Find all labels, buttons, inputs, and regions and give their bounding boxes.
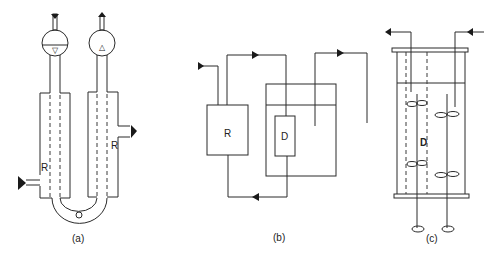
inlet-arrow-icon xyxy=(18,176,26,190)
bottom-flange xyxy=(394,194,469,198)
feed-line xyxy=(227,55,286,116)
vessel xyxy=(266,84,336,176)
inlet-line xyxy=(455,32,484,107)
left-jacket-label: R xyxy=(41,162,48,173)
flow-arrow-icon xyxy=(252,51,259,59)
caption-b: (b) xyxy=(273,232,285,243)
right-bulb-symbol: △ xyxy=(99,43,106,52)
right-jacket-label: R xyxy=(111,140,118,151)
dialyser-label: D xyxy=(281,131,288,142)
outlet-arrow-icon xyxy=(385,28,391,36)
flow-arrow-icon xyxy=(252,193,259,201)
caption-a: (a) xyxy=(72,233,84,244)
panel-a: ▽ △ R R xyxy=(18,12,137,244)
rotation-icon xyxy=(412,226,424,232)
rotation-icon xyxy=(442,226,454,232)
panel-b: R D (b) xyxy=(198,49,367,243)
sampling-port xyxy=(76,212,82,218)
caption-c: (c) xyxy=(426,233,438,244)
up-arrow-icon xyxy=(98,12,106,17)
panel-c: D (c) xyxy=(385,28,484,244)
reactor-label: R xyxy=(224,128,231,139)
inlet-arrow-icon xyxy=(467,28,473,36)
inlet-arrow-icon xyxy=(198,62,204,70)
outlet-arrow-icon xyxy=(131,125,137,138)
dialysate-line xyxy=(315,53,367,126)
figure-canvas: ▽ △ R R xyxy=(0,0,504,253)
top-flange xyxy=(392,48,468,52)
left-jacket xyxy=(40,93,70,198)
flow-arrow-icon xyxy=(337,49,344,57)
u-bend-inner xyxy=(60,198,97,211)
down-triangle-icon xyxy=(51,14,59,19)
left-bulb-symbol: ▽ xyxy=(52,46,59,55)
dialysis-zone-label: D xyxy=(420,137,427,148)
